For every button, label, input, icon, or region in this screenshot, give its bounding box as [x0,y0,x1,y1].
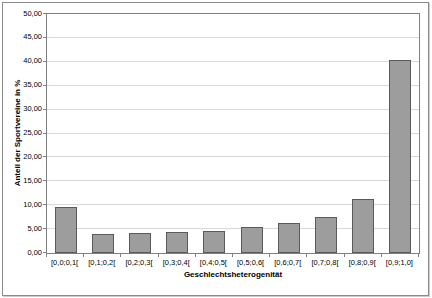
y-gridline [47,133,419,134]
bar-[0,0;0,1[ [55,207,77,253]
y-tick-label: 25,00 [0,128,42,137]
y-tick-label: 5,00 [0,224,42,233]
x-axis-tick [83,254,84,257]
y-tick-label: 45,00 [0,32,42,41]
x-tick-label: [0,3;0,4[ [163,258,190,267]
bar-[0,5;0,6[ [241,227,263,253]
x-tick-label: [0,4;0,5[ [200,258,227,267]
plot-area [46,13,420,254]
x-tick-label: [0,7;0,8[ [311,258,338,267]
y-tick-label: 30,00 [0,104,42,113]
y-tick-label: 50,00 [0,9,42,18]
y-axis-tick [43,61,46,62]
y-tick-label: 10,00 [0,200,42,209]
y-axis-tick [43,204,46,205]
y-axis-tick [43,180,46,181]
y-gridline [47,85,419,86]
x-axis-tick [306,254,307,257]
x-axis-tick [158,254,159,257]
bar-[0,8;0,9[ [352,199,374,253]
bar-[0,1;0,2[ [92,234,114,253]
y-tick-label: 20,00 [0,152,42,161]
bar-[0,4;0,5[ [203,231,225,253]
x-axis-title: Geschlechtsheterogenität [184,270,282,279]
x-tick-label: [0,8;0,9[ [349,258,376,267]
y-gridline [47,61,419,62]
y-gridline [47,180,419,181]
y-axis-tick [43,85,46,86]
y-gridline [47,37,419,38]
y-gridline [47,156,419,157]
x-tick-label: [0,0;0,1[ [51,258,78,267]
x-tick-label: [0,6;0,7[ [274,258,301,267]
x-tick-label: [0,1;0,2[ [88,258,115,267]
y-axis-tick [43,252,46,253]
bar-[0,3;0,4[ [166,232,188,253]
x-axis-tick [120,254,121,257]
chart-canvas: Anteil der Sportvereine in % Geschlechts… [0,0,432,298]
y-axis-tick [43,37,46,38]
y-axis-tick [43,109,46,110]
x-axis-tick [46,254,47,257]
y-tick-label: 35,00 [0,80,42,89]
y-axis-tick [43,13,46,14]
bar-[0,7;0,8[ [315,217,337,253]
bar-[0,2;0,3[ [129,233,151,253]
x-tick-label: [0,5;0,6[ [237,258,264,267]
bar-[0,6;0,7[ [278,223,300,253]
x-tick-label: [0,9;1,0] [386,258,413,267]
x-axis-tick [381,254,382,257]
x-axis-tick [344,254,345,257]
x-axis-tick [418,254,419,257]
x-axis-tick [232,254,233,257]
y-tick-label: 40,00 [0,56,42,65]
x-tick-label: [0,2;0,3[ [125,258,152,267]
y-gridline [47,109,419,110]
x-axis-tick [195,254,196,257]
y-tick-label: 0,00 [0,248,42,257]
y-tick-label: 15,00 [0,176,42,185]
y-axis-tick [43,156,46,157]
bar-[0,9;1,0] [389,60,411,253]
y-axis-tick [43,133,46,134]
y-axis-tick [43,228,46,229]
x-axis-tick [269,254,270,257]
